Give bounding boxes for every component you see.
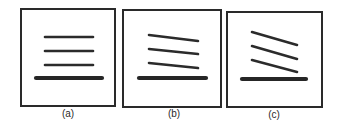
panel-c-line-3 bbox=[252, 60, 297, 72]
panel-a-frame bbox=[21, 9, 115, 106]
panel-a: (a) bbox=[21, 9, 115, 119]
panel-c-label: (c) bbox=[268, 109, 280, 120]
panel-b-frame bbox=[123, 10, 221, 107]
panel-c-frame bbox=[227, 12, 322, 107]
panel-b: (b) bbox=[123, 10, 221, 119]
panel-c-line-2 bbox=[252, 46, 297, 59]
panel-b-label: (b) bbox=[168, 108, 180, 119]
panel-c: (c) bbox=[227, 12, 322, 120]
panel-c-line-1 bbox=[252, 32, 297, 45]
panel-b-line-1 bbox=[149, 35, 198, 41]
panel-a-label: (a) bbox=[62, 108, 74, 119]
panel-b-line-3 bbox=[149, 63, 198, 68]
tilt-diagram: (a) (b) (c) bbox=[0, 0, 340, 128]
panel-b-line-2 bbox=[149, 49, 198, 54]
